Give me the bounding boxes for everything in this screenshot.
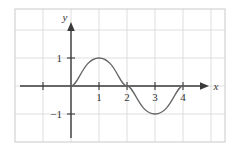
plot-background: [15, 9, 225, 142]
x-tick-label-1: 1: [96, 91, 102, 103]
y-axis-label: y: [62, 11, 68, 23]
x-tick-label-3: 3: [152, 91, 158, 103]
figure-container: 1 2 3 4 1 −1 x y: [0, 0, 243, 155]
x-tick-label-4: 4: [180, 91, 186, 103]
coordinate-plane-graph: 1 2 3 4 1 −1 x y: [0, 0, 243, 155]
x-axis-label: x: [213, 80, 219, 92]
x-tick-label-2: 2: [124, 91, 130, 103]
y-tick-label-negative-one: −1: [50, 108, 62, 120]
y-tick-label-positive-one: 1: [57, 52, 63, 64]
